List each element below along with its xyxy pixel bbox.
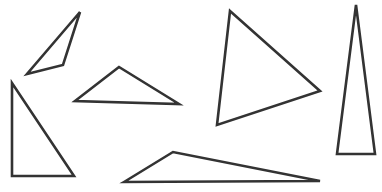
triangle-4 — [124, 152, 320, 182]
triangle-3 — [75, 67, 179, 104]
triangle-1 — [27, 12, 80, 74]
triangle-2 — [12, 83, 74, 176]
triangle-5 — [217, 11, 320, 125]
triangles-canvas — [0, 0, 382, 192]
triangle-6 — [337, 5, 375, 154]
triangles-drawing — [0, 0, 382, 192]
